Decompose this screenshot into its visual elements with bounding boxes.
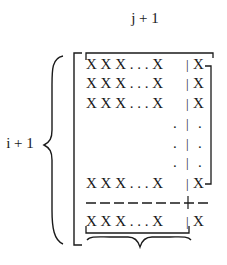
svg-text:X: X	[193, 175, 204, 191]
svg-text:.: .	[173, 135, 177, 151]
matrix-row-3: X X X . . . X | X	[86, 95, 204, 111]
row-brace-icon	[44, 56, 63, 244]
right-bracket	[205, 66, 211, 184]
svg-text:X X X . . . X: X X X . . . X	[86, 75, 163, 91]
svg-text:.: .	[198, 154, 202, 170]
svg-text:X: X	[193, 95, 204, 111]
svg-text:.: .	[198, 115, 202, 131]
matrix-row-last-inner: X X X . . . X | X	[86, 175, 204, 191]
svg-text:X: X	[193, 213, 204, 229]
matrix-row-1: X X X . . . X | X	[86, 56, 204, 72]
svg-text:.: .	[198, 135, 202, 151]
outer-bracket	[74, 53, 82, 245]
svg-text:|: |	[186, 57, 189, 72]
matrix-row-2: X X X . . . X | X	[86, 75, 204, 91]
svg-text:|: |	[186, 116, 189, 131]
column-count-label: j + 1	[130, 10, 159, 26]
column-brace-icon	[87, 237, 191, 247]
svg-text:X: X	[193, 56, 204, 72]
svg-text:X X X . . . X: X X X . . . X	[86, 213, 163, 229]
svg-text:X X X . . . X: X X X . . . X	[86, 56, 163, 72]
svg-text:|: |	[186, 214, 189, 229]
matrix-ellipsis-row-3: . | .	[173, 154, 202, 170]
svg-text:|: |	[186, 96, 189, 111]
matrix-ellipsis-row-2: . | .	[173, 135, 202, 151]
svg-text:X X X . . . X: X X X . . . X	[86, 175, 163, 191]
row-count-label: i + 1	[6, 135, 34, 151]
matrix-row-bottom: X X X . . . X | X	[86, 213, 204, 229]
svg-text:.: .	[173, 154, 177, 170]
svg-text:|: |	[186, 136, 189, 151]
matrix-partition-diagram: j + 1 i + 1 X X X . . . X | X X X X . . …	[0, 0, 227, 265]
svg-text:|: |	[186, 155, 189, 170]
matrix-ellipsis-row-1: . | .	[173, 115, 202, 131]
svg-text:X X X . . . X: X X X . . . X	[86, 95, 163, 111]
svg-text:|: |	[186, 76, 189, 91]
svg-text:.: .	[173, 115, 177, 131]
svg-text:X: X	[193, 75, 204, 91]
svg-text:|: |	[186, 176, 189, 191]
